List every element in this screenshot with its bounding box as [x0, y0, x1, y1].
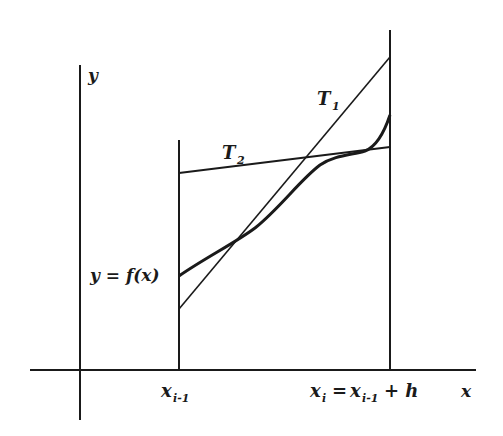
svg-text:+ h: + h	[384, 380, 418, 401]
function-curve	[179, 115, 390, 276]
tangent-t1	[179, 57, 390, 309]
svg-text:i-1: i-1	[173, 392, 189, 405]
svg-text:T: T	[317, 88, 332, 109]
svg-text:1: 1	[332, 100, 340, 113]
svg-text:=: =	[332, 380, 347, 401]
svg-text:x: x	[349, 380, 361, 401]
t1-label: T 1	[317, 88, 340, 113]
svg-text:x: x	[309, 380, 321, 401]
tangent-t2	[179, 147, 390, 173]
svg-text:2: 2	[236, 154, 245, 167]
x-left-label: x i-1	[160, 380, 189, 405]
x-axis-label: x	[460, 381, 472, 401]
curve-label: y = f(x)	[89, 265, 160, 285]
y-axis-label: y	[87, 65, 99, 85]
t2-label: T 2	[222, 142, 245, 167]
svg-text:i-1: i-1	[362, 392, 378, 405]
svg-text:i: i	[322, 392, 326, 405]
diagram-canvas: y x y = f(x) T 1 T 2 x i-1 x i = x i-1 +…	[0, 0, 503, 436]
svg-text:x: x	[160, 380, 172, 401]
x-right-label: x i = x i-1 + h	[309, 380, 418, 405]
svg-text:T: T	[222, 142, 237, 163]
